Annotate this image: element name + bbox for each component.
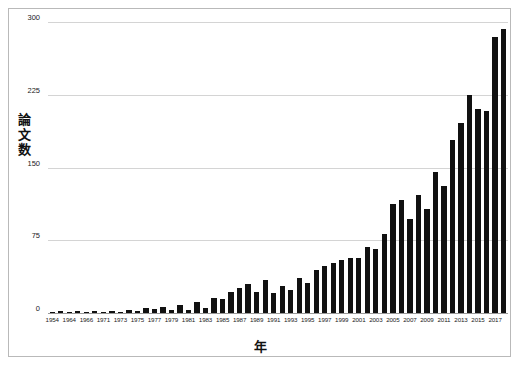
x-axis-tick: 2009	[423, 316, 432, 328]
bar-slot	[167, 22, 176, 313]
x-axis-tick: 1999	[338, 316, 347, 328]
bar-slot	[218, 22, 227, 313]
bar-slot	[269, 22, 278, 313]
x-axis-tick: 2011	[440, 316, 449, 328]
bar	[484, 111, 489, 313]
bar-slot	[116, 22, 125, 313]
bar	[356, 258, 361, 313]
bar	[382, 234, 387, 313]
bar	[390, 204, 395, 313]
bar	[237, 288, 242, 313]
bar	[263, 280, 268, 313]
bar-slot	[210, 22, 219, 313]
bar-slot	[474, 22, 483, 313]
bar-slot	[244, 22, 253, 313]
x-axis-tick: 2003	[372, 316, 381, 328]
bar	[450, 140, 455, 313]
bar-slot	[176, 22, 185, 313]
bar	[458, 123, 463, 313]
x-axis-tick: 1964	[65, 316, 74, 328]
bar	[331, 263, 336, 313]
bar	[288, 290, 293, 313]
bar-slot	[414, 22, 423, 313]
bar	[143, 308, 148, 313]
x-axis-tick: 1966	[82, 316, 91, 328]
bar-slot	[57, 22, 66, 313]
bar-slot	[235, 22, 244, 313]
bar	[92, 311, 97, 313]
x-axis-tick: 1997	[321, 316, 330, 328]
x-axis-tick: 2015	[474, 316, 483, 328]
bar	[314, 270, 319, 313]
x-axis-tick: 2017	[491, 316, 500, 328]
bar	[186, 310, 191, 313]
y-axis-tick-label: 225	[0, 87, 40, 95]
bar	[399, 200, 404, 313]
bar-slot	[65, 22, 74, 313]
y-axis-tick: 75	[0, 236, 40, 244]
bar	[203, 308, 208, 313]
bar	[160, 307, 165, 313]
x-axis-tick: 2001	[355, 316, 364, 328]
bar-slot	[406, 22, 415, 313]
y-axis-tick-label: 75	[0, 232, 40, 240]
bar	[365, 247, 370, 313]
bar	[109, 311, 114, 313]
x-axis-tick: 1987	[235, 316, 244, 328]
x-axis-title-text: 年	[254, 339, 267, 354]
bar-slot	[372, 22, 381, 313]
bar-slot	[482, 22, 491, 313]
bar-slot	[82, 22, 91, 313]
bar	[373, 249, 378, 313]
bar	[433, 172, 438, 313]
bar-slot	[261, 22, 270, 313]
bar-slot	[99, 22, 108, 313]
bar	[152, 309, 157, 313]
y-axis-tick-labels: 075150225300	[0, 18, 44, 313]
x-axis-tick-labels: 1954196419661971197319751977197919811983…	[48, 316, 508, 328]
bar-slot	[252, 22, 261, 313]
y-axis-tick-label: 300	[0, 14, 40, 22]
bar-slot	[108, 22, 117, 313]
bar-slot	[303, 22, 312, 313]
bar	[177, 305, 182, 313]
bar	[305, 283, 310, 313]
x-axis-title: 年	[0, 336, 520, 355]
bar	[126, 310, 131, 313]
axis-baseline	[48, 313, 508, 314]
bar	[475, 109, 480, 313]
bar	[416, 195, 421, 313]
bar-slot	[321, 22, 330, 313]
bar	[492, 37, 497, 313]
bar	[135, 311, 140, 313]
bar	[254, 292, 259, 313]
bar-slot	[295, 22, 304, 313]
x-axis-tick: 1993	[286, 316, 295, 328]
x-axis-tick: 1991	[269, 316, 278, 328]
bar-slot	[440, 22, 449, 313]
bar-slot	[457, 22, 466, 313]
bar-slot	[312, 22, 321, 313]
bar-slot	[193, 22, 202, 313]
x-axis-tick: 1981	[184, 316, 193, 328]
bar-slot	[338, 22, 347, 313]
bar	[50, 312, 55, 313]
x-axis-tick: 1983	[201, 316, 210, 328]
bar-slot	[397, 22, 406, 313]
y-axis-tick: 300	[0, 18, 40, 26]
bar-slot	[142, 22, 151, 313]
bar-slot	[491, 22, 500, 313]
bar-slot	[74, 22, 83, 313]
bar-slot	[150, 22, 159, 313]
bar-slot	[125, 22, 134, 313]
x-axis-tick: 1995	[303, 316, 312, 328]
x-axis-tick: 1985	[218, 316, 227, 328]
bar	[58, 311, 63, 313]
bar	[348, 258, 353, 313]
x-axis-tick: 1973	[116, 316, 125, 328]
plot-inner	[48, 22, 508, 313]
bar-slot	[431, 22, 440, 313]
plot-area	[48, 18, 508, 313]
bar-slot	[499, 22, 508, 313]
bar-slot	[329, 22, 338, 313]
